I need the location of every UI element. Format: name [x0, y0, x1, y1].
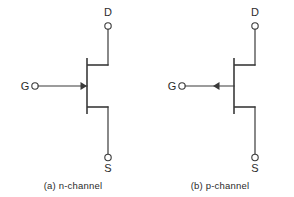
n-channel-schematic: D S G (a) n-chan: [0, 0, 147, 197]
caption-n-channel: (a) n-channel: [44, 180, 103, 191]
source-label-b: S: [251, 162, 258, 174]
drain-label-a: D: [104, 6, 112, 18]
drain-terminal-dot-a: [105, 23, 111, 29]
transistor-symbol-n-channel: D S G (a) n-chan: [0, 0, 147, 197]
gate-terminal-dot-a: [32, 83, 38, 89]
gate-label-b: G: [168, 80, 177, 92]
gate-label-a: G: [21, 80, 30, 92]
drain-label-b: D: [251, 6, 259, 18]
source-label-a: S: [104, 162, 111, 174]
source-terminal-dot-a: [105, 154, 111, 160]
gate-terminal-dot-b: [179, 83, 185, 89]
source-terminal-dot-b: [252, 154, 258, 160]
drain-terminal-dot-b: [252, 23, 258, 29]
p-channel-schematic: D S G (b) p-chan: [147, 0, 294, 197]
mosfet-symbols-figure: D S G (a) n-chan: [0, 0, 294, 197]
gate-arrow-in-icon-a: [81, 82, 88, 90]
gate-arrow-out-icon-b: [213, 82, 220, 90]
caption-p-channel: (b) p-channel: [191, 180, 250, 191]
transistor-symbol-p-channel: D S G (b) p-chan: [147, 0, 294, 197]
